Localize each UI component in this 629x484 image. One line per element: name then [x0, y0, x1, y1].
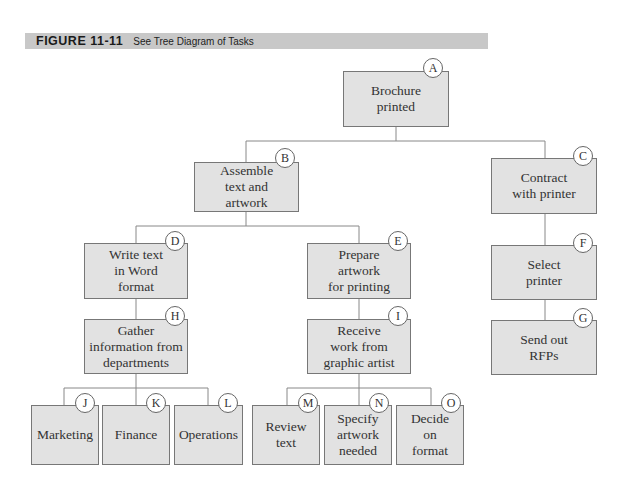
task-node-receive-work: Receive work from graphic artist: [307, 319, 411, 374]
task-node-assemble-text-and-artwork: Assemble text and artwork: [194, 162, 299, 212]
task-id-badge: O: [441, 393, 461, 413]
task-id-badge: I: [388, 306, 408, 326]
task-label: Operations: [179, 427, 238, 443]
task-node-operations: Operations: [174, 405, 243, 465]
task-id-badge: L: [218, 393, 238, 413]
task-label: Gather information from departments: [89, 323, 182, 371]
task-label: Assemble text and artwork: [220, 163, 273, 211]
task-id-badge: M: [298, 393, 318, 413]
task-label: Contract with printer: [512, 170, 575, 202]
task-id-badge: C: [573, 146, 593, 166]
task-id-badge: D: [165, 231, 185, 251]
task-node-send-out-rfps: Send out RFPs: [491, 320, 597, 375]
task-node-review-text: Review text: [252, 405, 320, 465]
task-node-prepare-artwork: Prepare artwork for printing: [307, 243, 411, 299]
task-node-brochure-printed: Brochure printed: [343, 71, 449, 127]
task-id-badge: A: [423, 58, 443, 78]
task-id-badge: N: [369, 393, 389, 413]
task-label: Prepare artwork for printing: [328, 247, 390, 295]
task-label: Receive work from graphic artist: [324, 323, 395, 371]
task-label: Brochure printed: [371, 83, 421, 115]
task-node-write-text: Write text in Word format: [84, 243, 188, 299]
task-node-contract-with-printer: Contract with printer: [491, 158, 597, 214]
task-label: Send out RFPs: [520, 332, 568, 364]
task-node-select-printer: Select printer: [491, 245, 597, 300]
task-id-badge: E: [388, 231, 408, 251]
task-label: Marketing: [37, 427, 93, 443]
task-label: Finance: [115, 427, 158, 443]
task-node-marketing: Marketing: [31, 405, 99, 465]
task-label: Write text in Word format: [109, 247, 163, 295]
task-id-badge: G: [573, 308, 593, 328]
task-node-decide-format: Decide on format: [396, 405, 464, 465]
task-label: Specify artwork needed: [337, 411, 379, 459]
task-label: Select printer: [526, 257, 562, 289]
task-id-badge: F: [573, 233, 593, 253]
task-id-badge: B: [275, 148, 295, 168]
task-label: Review text: [265, 419, 306, 451]
task-id-badge: H: [165, 306, 185, 326]
task-node-gather-information: Gather information from departments: [84, 319, 188, 374]
task-id-badge: K: [146, 393, 166, 413]
task-id-badge: J: [75, 393, 95, 413]
task-node-specify-artwork: Specify artwork needed: [324, 405, 392, 465]
task-label: Decide on format: [411, 411, 449, 459]
task-node-finance: Finance: [102, 405, 170, 465]
